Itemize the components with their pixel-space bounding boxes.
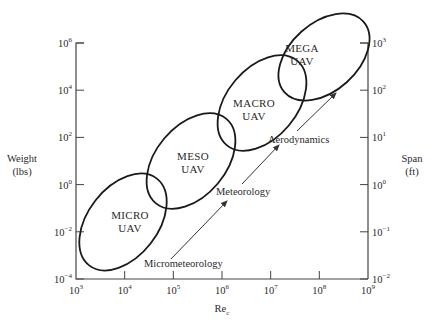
bottom-tick-label: 106 <box>215 283 230 296</box>
left-axis-title-line1: Weight <box>7 153 37 164</box>
meso-uav-label-line1: MESO <box>177 150 209 162</box>
right-axis-title-line1: Span <box>402 153 424 164</box>
right-tick-label: 101 <box>372 130 387 143</box>
left-axis-line <box>76 43 368 279</box>
micrometeorology-arrow <box>171 201 227 259</box>
meso-uav-label-line2: UAV <box>181 163 204 175</box>
mega-uav-label-line1: MEGA <box>285 42 319 54</box>
left-tick-label: 102 <box>58 130 73 143</box>
bottom-axis-ticks: 103104105106107108109 <box>69 271 376 296</box>
left-tick-label: 10−2 <box>54 225 72 238</box>
micro-uav-label-line1: MICRO <box>111 209 149 221</box>
right-axis-line <box>360 43 368 279</box>
right-tick-label: 10−1 <box>372 225 390 238</box>
bottom-tick-label: 108 <box>312 283 327 296</box>
micro-uav-label-line2: UAV <box>118 222 141 234</box>
aerodynamics-label: Aerodynamics <box>268 134 329 145</box>
uav-diagram: 10610410210010−210−4 10310210110010−110−… <box>0 0 434 323</box>
right-tick-label: 103 <box>372 36 387 49</box>
left-tick-label: 106 <box>58 36 73 49</box>
right-axis-ticks: 10310210110010−110−2 <box>360 36 390 285</box>
right-tick-label: 100 <box>372 178 387 191</box>
bottom-tick-label: 104 <box>118 283 132 296</box>
left-tick-label: 10−4 <box>54 272 72 285</box>
bottom-tick-label: 109 <box>361 283 376 296</box>
bottom-axis-title: Rec <box>215 303 230 317</box>
bottom-tick-label: 105 <box>166 283 181 296</box>
bottom-tick-label: 103 <box>69 283 84 296</box>
macro-uav-label-line1: MACRO <box>233 97 275 109</box>
right-tick-label: 102 <box>372 83 387 96</box>
meteorology-label: Meteorology <box>216 186 271 197</box>
right-axis-title-line2: (ft) <box>405 166 419 178</box>
left-tick-label: 100 <box>58 178 73 191</box>
left-axis-title-line2: (lbs) <box>12 166 32 178</box>
micrometeorology-label: Micrometeorology <box>144 258 223 269</box>
mega-uav-label-line2: UAV <box>290 55 313 67</box>
bottom-tick-label: 107 <box>264 283 279 296</box>
left-tick-label: 104 <box>58 83 73 96</box>
macro-uav-label-line2: UAV <box>242 110 265 122</box>
